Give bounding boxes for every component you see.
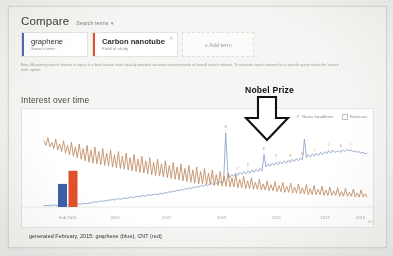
close-icon[interactable]: ✕ (169, 36, 173, 41)
term-kind-carbon-nanotube: Field of study (102, 46, 169, 52)
interest-over-time-chart: ✓ News headlines Forecast ABCDEFGHIJKL 2… (21, 108, 374, 228)
page-title: Compare (21, 15, 69, 27)
nobel-prize-annotation-label: Nobel Prize (245, 85, 294, 95)
inset-bar-group-label: Feb 2015 (59, 215, 77, 220)
beta-note: Beta: Measuring search interest in topic… (21, 63, 339, 74)
check-icon: ✓ (296, 114, 300, 119)
chevron-down-icon: ▼ (110, 20, 114, 25)
arrow-down-icon (243, 96, 291, 142)
x-tick-label: 2013 (320, 215, 329, 220)
term-card-carbon-nanotube[interactable]: ✕ Carbon nanotube Field of study (92, 32, 178, 57)
trends-screenshot-sheet: Compare Search terms ▼ graphene Search t… (8, 6, 387, 248)
toggle-news-headlines-label: News headlines (302, 114, 333, 119)
search-terms-dropdown-label: Search terms (76, 20, 108, 26)
term-name-carbon-nanotube: Carbon nanotube (102, 37, 169, 46)
interest-over-time-title: Interest over time (21, 95, 89, 105)
checkbox-icon (342, 114, 348, 120)
chart-plot-area: ABCDEFGHIJKL (22, 125, 375, 217)
figure-caption: generated February, 2015: graphene (blue… (29, 233, 162, 239)
term-card-graphene[interactable]: graphene Search term (21, 32, 88, 57)
term-color-swatch-cnt (93, 33, 95, 56)
x-axis-labels: 200520072009201120132015Feb 2015 (22, 215, 375, 225)
svg-text:C: C (237, 167, 240, 171)
term-kind-graphene: Search term (31, 46, 79, 52)
scanned-page-background: Compare Search terms ▼ graphene Search t… (0, 0, 393, 256)
toggle-forecast-label: Forecast (350, 114, 367, 119)
svg-text:I: I (314, 148, 315, 152)
chart-svg: ABCDEFGHIJKL (22, 125, 375, 217)
x-tick-label: 2007 (162, 215, 171, 220)
x-tick-label: 2011 (272, 215, 281, 220)
term-color-swatch-graphene (22, 33, 24, 56)
svg-text:E: E (263, 147, 266, 151)
add-term-button[interactable]: + Add term (182, 32, 254, 57)
svg-text:B: B (225, 125, 228, 129)
svg-text:F: F (275, 154, 277, 158)
x-tick-label: 2015 (356, 215, 365, 220)
toggle-forecast[interactable]: Forecast (342, 114, 367, 120)
svg-text:G: G (289, 154, 292, 158)
term-cards: graphene Search term ✕ Carbon nanotube F… (21, 32, 254, 57)
svg-text:D: D (247, 163, 250, 167)
term-name-graphene: graphene (31, 37, 79, 46)
svg-text:L: L (350, 142, 352, 146)
search-terms-dropdown[interactable]: Search terms ▼ (76, 20, 114, 28)
toggle-news-headlines[interactable]: ✓ News headlines (296, 114, 333, 119)
chart-toggles: ✓ News headlines Forecast (296, 114, 367, 120)
x-tick-label: 2005 (110, 215, 119, 220)
x-tick-label: 2009 (217, 215, 226, 220)
svg-text:H: H (301, 152, 304, 156)
svg-text:J: J (328, 143, 330, 147)
compare-header: Compare Search terms ▼ (21, 15, 114, 27)
corner-mark: G/Y (368, 220, 374, 224)
svg-text:K: K (340, 144, 343, 148)
